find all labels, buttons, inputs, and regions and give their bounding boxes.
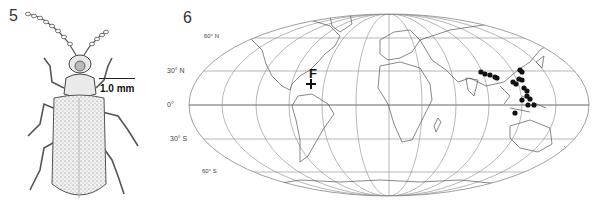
world-distribution-map — [0, 0, 596, 208]
distribution-point — [513, 81, 518, 86]
lat-label-0: 0° — [167, 101, 174, 108]
lat-label-30s: 30° S — [170, 135, 187, 142]
distribution-point — [519, 77, 524, 82]
distribution-point — [524, 88, 529, 93]
distribution-point — [512, 110, 517, 115]
distribution-point — [519, 69, 524, 74]
distribution-point — [531, 102, 536, 107]
distribution-point — [482, 71, 487, 76]
distribution-point — [525, 102, 530, 107]
marker-label-f: F — [309, 67, 317, 80]
distribution-point — [527, 96, 532, 101]
distribution-point — [487, 72, 492, 77]
lat-label-60s: 60° S — [202, 168, 217, 174]
lat-label-30n: 30° N — [167, 67, 185, 74]
distribution-point — [494, 75, 499, 80]
distribution-point — [519, 97, 524, 102]
lat-label-60n: 60° N — [204, 33, 219, 39]
